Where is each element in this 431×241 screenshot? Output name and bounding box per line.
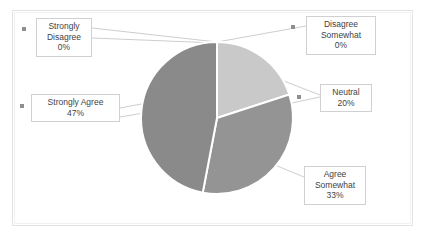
- pie-slices: [141, 42, 293, 194]
- data-label-agree-somewhat-line1: Agree: [308, 169, 362, 180]
- marker-icon-strongly-agree: [20, 104, 24, 108]
- leader-line-strongly-disagree: [92, 28, 217, 42]
- data-label-neutral-line1: Neutral: [324, 87, 368, 98]
- data-label-strongly-disagree-value: 0%: [40, 42, 88, 53]
- pie-slice-strongly-agree: [141, 42, 217, 193]
- data-label-strongly-agree-line1: Strongly Agree: [35, 97, 116, 108]
- data-label-strongly-agree: Strongly Agree 47%: [31, 94, 120, 122]
- data-label-disagree-somewhat-value: 0%: [310, 40, 372, 51]
- marker-icon-strongly-disagree: [22, 27, 26, 31]
- marker-icon-disagree-somewhat: [291, 25, 295, 29]
- leader-line-strongly-disagree-2: [92, 38, 217, 43]
- data-label-strongly-agree-value: 47%: [35, 108, 116, 119]
- data-label-strongly-disagree-line2: Disagree: [40, 32, 88, 43]
- data-label-disagree-somewhat-line2: Somewhat: [310, 30, 372, 41]
- data-label-strongly-disagree-line1: Strongly: [40, 21, 88, 32]
- data-label-disagree-somewhat: Disagree Somewhat 0%: [306, 16, 376, 55]
- data-label-agree-somewhat: Agree Somewhat 33%: [304, 166, 366, 205]
- data-label-disagree-somewhat-line1: Disagree: [310, 19, 372, 30]
- pie-chart-container: Strongly Disagree 0% Disagree Somewhat 0…: [0, 0, 431, 241]
- data-label-agree-somewhat-line2: Somewhat: [308, 180, 362, 191]
- data-label-strongly-disagree: Strongly Disagree 0%: [36, 18, 92, 57]
- data-label-neutral: Neutral 20%: [320, 84, 372, 112]
- data-label-agree-somewhat-value: 33%: [308, 190, 362, 201]
- data-label-neutral-value: 20%: [324, 98, 368, 109]
- marker-icon-neutral: [297, 95, 301, 99]
